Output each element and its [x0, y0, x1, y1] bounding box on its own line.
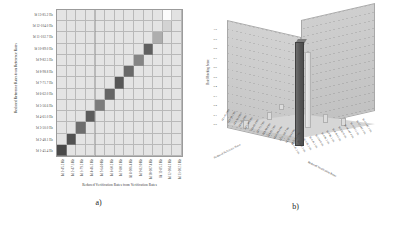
- heatmap-cell: [95, 100, 105, 111]
- panel-b-y-axis-title: Reduced Verification Rates: [307, 160, 337, 178]
- heatmap-cell: [57, 122, 67, 133]
- heatmap-cell: [67, 145, 77, 156]
- heatmap-cell: [76, 66, 86, 77]
- panel-a-y-tick: Id 8-98.8 Hz: [0, 66, 55, 77]
- heatmap-cell: [105, 55, 115, 66]
- heatmap-cell: [124, 44, 134, 55]
- heatmap-cell: [86, 111, 96, 122]
- heatmap-cell: [67, 122, 77, 133]
- heatmap-cell: [153, 10, 163, 21]
- right-wall-mesh: [302, 4, 374, 127]
- heatmap-cell: [95, 32, 105, 43]
- heatmap-cell: [134, 10, 144, 21]
- heatmap-cell: [105, 100, 115, 111]
- heatmap-cell: [144, 44, 154, 55]
- heatmap-cell: [172, 55, 182, 66]
- heatmap-cell: [134, 44, 144, 55]
- back-right-wall: [301, 3, 375, 128]
- heatmap-cell: [115, 10, 125, 21]
- heatmap-cell: [57, 145, 67, 156]
- heatmap-cell: [67, 21, 77, 32]
- heatmap-cell: [95, 111, 105, 122]
- heatmap-cell: [105, 10, 115, 21]
- panel-a-y-tick: Id 9-82.5 Hz: [0, 55, 55, 66]
- heatmap-cell: [163, 134, 173, 145]
- panel-b-caption: b): [197, 202, 394, 211]
- heatmap-cell: [153, 100, 163, 111]
- heatmap-cell: [57, 66, 67, 77]
- panel-a-y-tick: Id 7-71.7 Hz: [0, 77, 55, 88]
- heatmap-cell: [124, 66, 134, 77]
- heatmap-cell: [115, 89, 125, 100]
- heatmap-cell: [76, 89, 86, 100]
- heatmap-cell: [144, 122, 154, 133]
- heatmap-cell: [144, 89, 154, 100]
- heatmap-cell: [153, 66, 163, 77]
- heatmap-cell: [153, 145, 163, 156]
- heatmap-cell: [115, 134, 125, 145]
- heatmap-cell: [124, 21, 134, 32]
- heatmap-cell: [134, 122, 144, 133]
- heatmap-cell: [153, 77, 163, 88]
- panel-a-y-tick: Id 12-104.0 Hz: [0, 20, 55, 31]
- heatmap-cell: [153, 122, 163, 133]
- panel-a-x-tick-label: Id 2-47.3 Hz: [71, 159, 75, 176]
- panel-a-x-tick-label: Id 4-46.1 Hz: [90, 159, 94, 176]
- panel-b-3d-bar-chart: Rate Matching Score 1.00.90.80.70.60.50.…: [197, 0, 394, 225]
- panel-a-x-tick-label: Id 3-79.2 Hz: [80, 159, 84, 176]
- heatmap-cell: [134, 55, 144, 66]
- heatmap-cell: [76, 77, 86, 88]
- heatmap-cell: [76, 10, 86, 21]
- panel-a-x-tick-label: Id 8-106.4 Hz: [129, 159, 133, 178]
- heatmap-cell: [57, 44, 67, 55]
- heatmap-cell: [163, 32, 173, 43]
- heatmap-cell: [163, 55, 173, 66]
- heatmap-cell: [172, 111, 182, 122]
- heatmap-cell: [134, 77, 144, 88]
- panel-b-left-base-ticks: Id 1-45.4 HzId 2-48.1 HzId 3-50.0 HzId 4…: [221, 120, 297, 160]
- heatmap-cell: [57, 134, 67, 145]
- heatmap-cell: [86, 21, 96, 32]
- heatmap-cell: [67, 134, 77, 145]
- heatmap-cell: [76, 122, 86, 133]
- heatmap-cell: [172, 134, 182, 145]
- heatmap-cell: [76, 32, 86, 43]
- heatmap-cell: [57, 10, 67, 21]
- heatmap-cell: [115, 122, 125, 133]
- heatmap-cell: [144, 32, 154, 43]
- heatmap-cell: [144, 66, 154, 77]
- heatmap-cell: [86, 134, 96, 145]
- panel-a-y-tick-labels: Id 1-45.4 HzId 2-48.1 HzId 3-50.0 HzId 4…: [0, 9, 55, 157]
- bar-small-5: [279, 104, 284, 110]
- heatmap-cell: [153, 55, 163, 66]
- heatmap-cell: [153, 134, 163, 145]
- heatmap-cell: [163, 100, 173, 111]
- heatmap-cell: [86, 10, 96, 21]
- heatmap-cell: [105, 89, 115, 100]
- panel-a-x-tick-label: Id 1-45.2 Hz: [61, 159, 65, 176]
- bar-small-2: [267, 112, 272, 120]
- heatmap-cell: [124, 89, 134, 100]
- heatmap-cell: [124, 122, 134, 133]
- heatmap-cell: [115, 100, 125, 111]
- heatmap-cell: [134, 111, 144, 122]
- heatmap-cell: [163, 77, 173, 88]
- panel-b-right-base-ticks: Id 1-45.2 HzId 2-47.3 HzId 3-79.2 HzId 4…: [293, 118, 373, 160]
- heatmap-cell: [144, 145, 154, 156]
- panel-a-x-tick-label: Id 7-80.1 Hz: [119, 159, 123, 176]
- heatmap-cell: [172, 32, 182, 43]
- heatmap-cell: [76, 145, 86, 156]
- heatmap-cell: [163, 66, 173, 77]
- heatmap-cell: [163, 21, 173, 32]
- heatmap-cell: [105, 66, 115, 77]
- panel-a-y-tick: Id 6-62.0 Hz: [0, 89, 55, 100]
- heatmap-cell: [76, 100, 86, 111]
- heatmap-cell: [144, 100, 154, 111]
- heatmap-cell: [57, 55, 67, 66]
- heatmap-cell: [105, 122, 115, 133]
- heatmap-cell: [144, 10, 154, 21]
- heatmap-cell: [86, 100, 96, 111]
- heatmap-cell: [115, 55, 125, 66]
- heatmap-cell: [86, 89, 96, 100]
- panel-a-plot-area: [56, 9, 183, 157]
